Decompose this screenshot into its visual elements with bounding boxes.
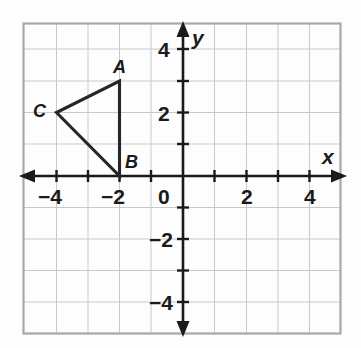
- x-axis-label: x: [322, 146, 334, 167]
- coordinate-plane-figure: 4 2 −2 −4 −4 −2 0 2 4 y x A B C: [0, 0, 361, 348]
- x-tick-label-4: 4: [304, 186, 316, 207]
- y-tick-label-2: 2: [158, 103, 170, 124]
- vertex-label-a: A: [113, 58, 126, 76]
- x-tick-label-neg2: −2: [101, 186, 125, 207]
- y-tick-label-neg4: −4: [149, 292, 173, 313]
- x-tick-label-0: 0: [158, 186, 170, 207]
- coordinate-grid-svg: [0, 0, 361, 348]
- x-tick-label-2: 2: [241, 186, 253, 207]
- vertex-label-c: C: [33, 102, 46, 120]
- vertex-label-b: B: [125, 153, 138, 171]
- y-tick-label-neg2: −2: [149, 229, 173, 250]
- y-axis-label: y: [192, 27, 204, 48]
- y-tick-label-4: 4: [158, 39, 170, 60]
- x-tick-label-neg4: −4: [38, 186, 62, 207]
